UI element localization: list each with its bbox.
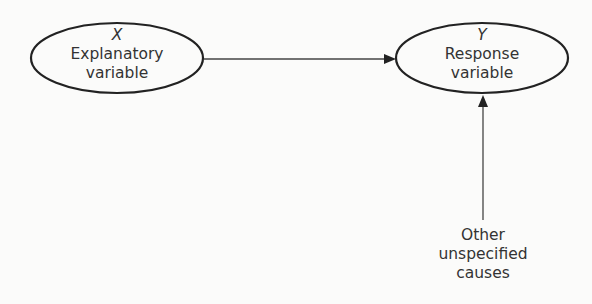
- other-line1: Other: [403, 226, 563, 245]
- arrow-other-to-y: [478, 95, 488, 220]
- response-line1: Response: [402, 45, 562, 64]
- response-line2: variable: [402, 64, 562, 83]
- other-line2: unspecified: [403, 245, 563, 264]
- response-symbol: Y: [402, 26, 562, 45]
- explanatory-line2: variable: [37, 64, 197, 83]
- arrowhead-icon: [384, 54, 396, 64]
- arrow-x-to-y: [204, 54, 396, 64]
- response-node-label: Y Response variable: [402, 26, 562, 83]
- explanatory-line1: Explanatory: [37, 45, 197, 64]
- explanatory-symbol: X: [37, 26, 197, 45]
- explanatory-node-label: X Explanatory variable: [37, 26, 197, 83]
- arrowhead-icon: [478, 95, 488, 107]
- other-line3: causes: [403, 264, 563, 283]
- other-causes-label: Other unspecified causes: [403, 226, 563, 283]
